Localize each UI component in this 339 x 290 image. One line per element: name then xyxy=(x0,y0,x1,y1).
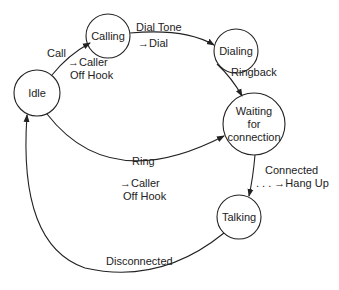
edge-idle-waiting xyxy=(47,114,224,161)
edge-label-call: Call xyxy=(47,47,66,60)
edge-action-hangup: . . . →Hang Up xyxy=(256,177,329,190)
node-waiting-label: Waiting for connection xyxy=(227,105,280,144)
waiting-line-1: Waiting xyxy=(227,105,280,118)
edge-waiting-talking xyxy=(249,155,255,196)
node-talking-label: Talking xyxy=(222,211,256,224)
diagram-canvas xyxy=(0,0,339,290)
edge-action-ring-caller-1: →Caller xyxy=(120,177,160,190)
node-idle-label: Idle xyxy=(28,87,46,100)
edge-label-connected: Connected xyxy=(265,164,318,177)
waiting-line-3: connection xyxy=(227,131,280,144)
edge-label-ringback: Ringback xyxy=(231,66,277,79)
node-calling-label: Calling xyxy=(91,30,125,43)
edge-label-disconnected: Disconnected xyxy=(106,255,173,268)
state-diagram: Idle Calling Dialing Waiting for connect… xyxy=(0,0,339,290)
node-dialing-label: Dialing xyxy=(219,45,253,58)
edge-action-ring-caller-2: Off Hook xyxy=(123,190,166,203)
edge-action-dial: →Dial xyxy=(138,37,168,50)
edge-action-caller-offhook-2: Off Hook xyxy=(70,69,113,82)
edge-action-caller-offhook-1: →Caller xyxy=(68,56,108,69)
edge-label-dial-tone: Dial Tone xyxy=(136,21,182,34)
edge-label-ring: Ring xyxy=(132,155,155,168)
waiting-line-2: for xyxy=(227,118,280,131)
